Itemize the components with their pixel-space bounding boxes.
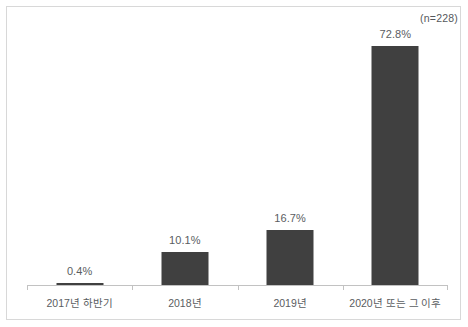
axis-tick bbox=[447, 285, 448, 290]
bar-value-label: 72.8% bbox=[380, 28, 412, 40]
x-axis-category-labels: 2017년 하반기2018년2019년2020년 또는 그 이후 bbox=[27, 292, 448, 316]
axis-tick bbox=[238, 285, 239, 290]
axis-tick bbox=[343, 285, 344, 290]
bar bbox=[267, 230, 314, 285]
bar-value-label: 16.7% bbox=[274, 212, 306, 224]
category-label: 2017년 하반기 bbox=[27, 292, 132, 314]
plot-area: 0.4%10.1%16.7%72.8% bbox=[27, 22, 448, 285]
axis-tick bbox=[27, 285, 28, 290]
bar-chart: (n=228) 0.4%10.1%16.7%72.8% 2017년 하반기201… bbox=[0, 0, 468, 327]
bar-group: 0.4% bbox=[27, 22, 132, 285]
bar-group: 72.8% bbox=[343, 22, 448, 285]
bar-group: 16.7% bbox=[238, 22, 343, 285]
bar-stack: 10.1% bbox=[132, 22, 237, 285]
bar-stack: 72.8% bbox=[343, 22, 448, 285]
category-label: 2020년 또는 그 이후 bbox=[343, 292, 448, 314]
bar bbox=[372, 46, 419, 285]
category-label: 2018년 bbox=[132, 292, 237, 314]
bar-value-label: 0.4% bbox=[67, 265, 92, 277]
axis-tick bbox=[132, 285, 133, 290]
bar bbox=[161, 252, 208, 285]
category-label: 2019년 bbox=[238, 292, 343, 314]
bar-group: 10.1% bbox=[132, 22, 237, 285]
bar-stack: 0.4% bbox=[27, 22, 132, 285]
bar-stack: 16.7% bbox=[238, 22, 343, 285]
bar-value-label: 10.1% bbox=[169, 234, 201, 246]
